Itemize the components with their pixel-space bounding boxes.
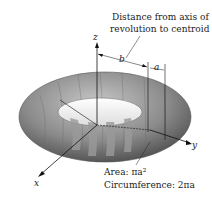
- caption-line-1: Distance from axis of: [112, 12, 209, 22]
- b-dimension-label: b: [119, 54, 125, 64]
- area-formula: Area: πa²: [104, 167, 146, 177]
- a-dimension-label: a: [154, 62, 159, 72]
- circumference-formula: Circumference: 2πa: [104, 180, 195, 190]
- caption-line-2: revolution to centroid: [110, 24, 209, 34]
- y-axis-label: y: [192, 140, 197, 150]
- x-axis-label: x: [34, 178, 39, 188]
- z-axis-label: z: [93, 32, 98, 42]
